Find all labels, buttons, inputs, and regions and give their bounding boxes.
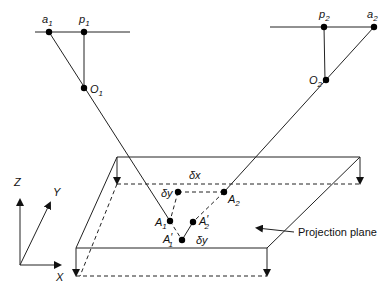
label-projection-plane: Projection plane — [298, 226, 377, 238]
label-dy-bottom: δy — [196, 234, 209, 246]
label-a1: a1 — [42, 13, 53, 28]
coordinate-axes: Z Y X — [13, 176, 64, 283]
point-A2 — [221, 189, 227, 195]
projection-ray-1 — [49, 32, 170, 221]
center-o1 — [81, 85, 87, 91]
label-A1-prime: A′1 — [162, 231, 173, 249]
label-A2: A2 — [227, 193, 240, 208]
a2-a2p-dashed-line — [193, 192, 224, 222]
image-point-a1 — [46, 29, 52, 35]
label-a2: a2 — [367, 8, 378, 23]
callout-arrow — [257, 228, 294, 232]
point-A1 — [167, 218, 173, 224]
principal-axis-2 — [324, 27, 325, 80]
projection-ray-2 — [224, 27, 374, 192]
label-p1: p1 — [78, 13, 90, 28]
image-point-a2 — [371, 24, 377, 30]
parallax-points: δx δy δy A2 A1 A′2 A′1 — [154, 169, 240, 249]
label-p2: p2 — [318, 8, 330, 23]
label-y: Y — [53, 186, 61, 198]
principal-point-p2 — [321, 24, 327, 30]
point-A2-prime — [190, 219, 196, 225]
label-dy-top: δy — [161, 187, 174, 199]
center-o2 — [323, 77, 329, 83]
label-z: Z — [13, 176, 22, 188]
label-x: X — [55, 271, 64, 283]
camera-2: p2 a2 O2 — [224, 8, 378, 192]
principal-point-p1 — [81, 29, 87, 35]
point-dy-top — [175, 189, 181, 195]
label-A1: A1 — [154, 216, 167, 231]
projection-plane-callout: Projection plane — [257, 226, 377, 238]
label-o1: O1 — [90, 83, 103, 98]
label-A2-prime: A′2 — [198, 213, 209, 231]
y-axis — [20, 203, 50, 265]
label-o2: O2 — [309, 74, 323, 89]
label-dx: δx — [189, 169, 201, 181]
point-A1-prime — [179, 237, 185, 243]
projection-plane — [76, 157, 360, 276]
stereo-projection-diagram: a1 p1 O1 p2 a2 O2 δx — [0, 0, 392, 297]
